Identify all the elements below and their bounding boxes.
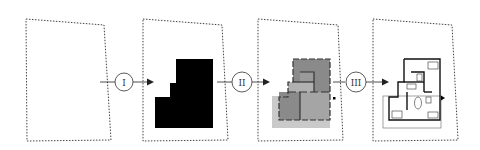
pipeline-diagram: I II III [0, 0, 480, 150]
site-boundary [26, 19, 111, 141]
step-label: II [238, 78, 246, 88]
stage-boundary [26, 19, 111, 141]
room-right [300, 92, 330, 120]
stage-plan [373, 19, 458, 141]
furniture [392, 62, 438, 118]
cabinet-icon [417, 74, 422, 81]
step-arrow-3: III [333, 72, 389, 92]
room-left [279, 92, 300, 120]
bed-icon [428, 62, 438, 69]
step-label: I [122, 78, 126, 88]
stage-rooms [258, 19, 343, 141]
site-boundary [373, 19, 458, 141]
room-hall [288, 82, 314, 92]
sink-icon [407, 84, 416, 89]
desk-icon [428, 112, 438, 118]
sofa-icon [392, 111, 402, 118]
chair-icon [426, 97, 431, 103]
entrance-arrow [441, 96, 445, 101]
stage-footprint [143, 19, 228, 141]
entrance-marker [333, 97, 336, 100]
building-footprint [155, 59, 213, 128]
step-label: III [351, 78, 362, 88]
dining-table-icon [415, 97, 422, 109]
